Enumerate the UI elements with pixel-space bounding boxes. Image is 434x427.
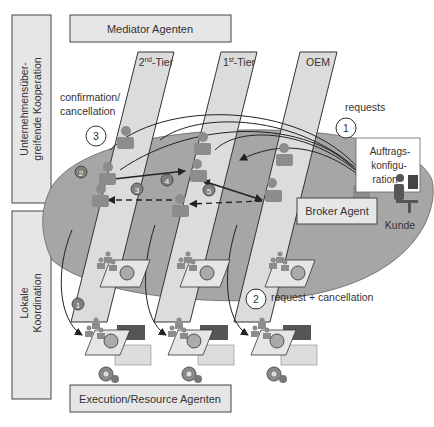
customer-label: Kunde — [385, 219, 416, 231]
order-config-line1: Auftrags- — [370, 146, 411, 157]
execution-cells — [85, 318, 317, 384]
diagram-canvas: Unternehmensüber- greifende Kooperation … — [0, 0, 434, 427]
tier-2nd-suffix: -Tier — [152, 56, 174, 68]
execution-agents-label: Execution/Resource Agenten — [79, 393, 221, 405]
step-circle-3: 3 — [86, 126, 106, 146]
svg-text:1: 1 — [76, 301, 81, 310]
svg-text:3: 3 — [93, 130, 99, 142]
requests-label: requests — [345, 101, 385, 113]
svg-text:1st-Tier: 1st-Tier — [223, 56, 256, 68]
order-config-line3: ration — [372, 174, 397, 185]
side-label-local-line2: Koordination — [31, 273, 43, 332]
step-badge-2: 2 — [75, 166, 87, 178]
mediator-agents-box: Mediator Agenten — [70, 15, 231, 42]
side-label-local-line1: Lokale — [18, 287, 30, 318]
step-badge-3: 3 — [131, 183, 143, 195]
step-badge-5: 5 — [203, 184, 215, 196]
execution-cell-2nd — [85, 318, 151, 384]
step-circle-1: 1 — [336, 118, 356, 138]
request-cancellation-label: request + cancellation — [271, 291, 374, 303]
broker-agent-box: Broker Agent — [297, 198, 377, 224]
tier-oem-label: OEM — [306, 56, 330, 68]
side-label-cooperation-line1: Unternehmensüber- — [18, 62, 30, 156]
broker-agent-label: Broker Agent — [305, 205, 369, 217]
svg-text:5: 5 — [207, 187, 212, 196]
tier-1st-suffix: -Tier — [234, 56, 256, 68]
svg-text:2: 2 — [253, 293, 259, 305]
svg-text:4: 4 — [165, 177, 170, 186]
execution-cell-oem — [251, 318, 317, 384]
execution-cell-1st — [168, 318, 234, 384]
svg-text:2: 2 — [79, 169, 84, 178]
order-config-line2: konfigu- — [371, 160, 407, 171]
side-label-cooperation-line2: greifende Kooperation — [31, 57, 43, 160]
execution-agents-box: Execution/Resource Agenten — [70, 385, 231, 412]
step-badge-4: 4 — [161, 174, 173, 186]
step-circle-2: 2 — [246, 289, 266, 309]
confirmation-label-line1: confirmation/ — [60, 91, 120, 103]
step-badge-1: 1 — [72, 298, 84, 310]
svg-text:1: 1 — [343, 122, 349, 134]
svg-text:3: 3 — [135, 186, 140, 195]
svg-text:2nd-Tier: 2nd-Tier — [139, 56, 174, 68]
mediator-agents-label: Mediator Agenten — [107, 23, 193, 35]
confirmation-label-line2: cancellation — [60, 105, 116, 117]
side-label-cooperation: Unternehmensüber- greifende Kooperation — [12, 15, 51, 203]
